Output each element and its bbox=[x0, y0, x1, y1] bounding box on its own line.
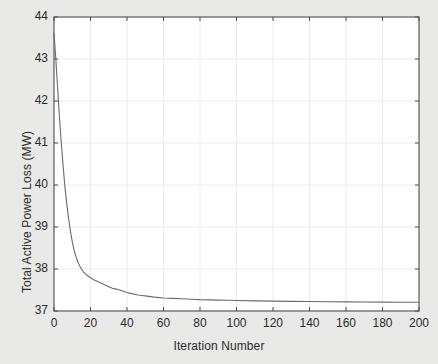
x-tick-label: 20 bbox=[76, 316, 106, 330]
x-tick-label: 100 bbox=[222, 316, 252, 330]
y-tick-label: 38 bbox=[26, 261, 48, 275]
x-axis-label: Iteration Number bbox=[0, 339, 438, 353]
y-tick-label: 41 bbox=[26, 135, 48, 149]
y-tick-label: 37 bbox=[26, 303, 48, 317]
y-tick-label: 39 bbox=[26, 219, 48, 233]
x-tick-label: 80 bbox=[185, 316, 215, 330]
y-tick-label: 40 bbox=[26, 177, 48, 191]
chart-figure: Total Active Power Loss (MW) Iteration N… bbox=[0, 0, 438, 364]
x-tick-label: 120 bbox=[258, 316, 288, 330]
y-tick-label: 43 bbox=[26, 51, 48, 65]
x-tick-label: 40 bbox=[112, 316, 142, 330]
x-tick-label: 200 bbox=[404, 316, 434, 330]
y-tick-label: 44 bbox=[26, 9, 48, 23]
x-tick-label: 160 bbox=[331, 316, 361, 330]
x-tick-label: 180 bbox=[368, 316, 398, 330]
x-tick-label: 60 bbox=[149, 316, 179, 330]
y-tick-label: 42 bbox=[26, 93, 48, 107]
x-tick-label: 0 bbox=[39, 316, 69, 330]
plot-area bbox=[0, 0, 438, 364]
y-axis-label-container: Total Active Power Loss (MW) bbox=[0, 0, 22, 311]
x-tick-label: 140 bbox=[295, 316, 325, 330]
